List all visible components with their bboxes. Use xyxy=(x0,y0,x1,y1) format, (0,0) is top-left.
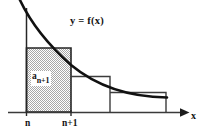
x-axis-label: x xyxy=(191,111,196,121)
x-axis-arrowhead xyxy=(180,108,190,116)
figure-container: y = f(x) an+1 n n+1 x xyxy=(0,0,202,140)
area-label-subscript: n+1 xyxy=(37,76,50,85)
curve-label: y = f(x) xyxy=(70,16,104,27)
rectangle-2-outline xyxy=(71,77,110,113)
shaded-area-label: an+1 xyxy=(31,71,51,86)
x-tick-label-n: n xyxy=(25,119,30,129)
x-tick-label-n-plus-1: n+1 xyxy=(62,119,77,129)
